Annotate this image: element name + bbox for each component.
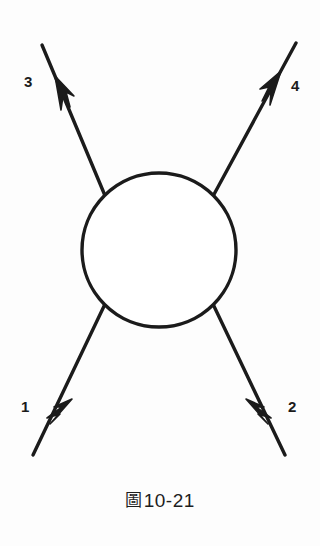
leg-label-2: 2 — [288, 399, 296, 414]
figure-caption-number: 10-21 — [144, 490, 195, 511]
leg-1-line — [33, 302, 106, 455]
figure-container: 3 4 1 2 圖10-21 — [0, 0, 320, 546]
leg-3-line-group — [42, 45, 106, 198]
scattering-diagram — [0, 0, 320, 546]
leg-label-1: 1 — [21, 399, 29, 414]
leg-2-line-group — [212, 302, 285, 455]
interaction-blob-circle — [82, 173, 236, 327]
leg-label-3: 3 — [24, 74, 32, 89]
leg-3-arrowhead — [55, 76, 74, 110]
leg-3-line — [42, 45, 106, 198]
leg-4-arrowhead — [260, 71, 281, 105]
leg-4-line-group — [212, 43, 296, 198]
figure-caption-prefix: 圖 — [125, 490, 143, 510]
leg-4-line — [212, 43, 296, 198]
leg-2-line — [212, 302, 285, 455]
leg-label-4: 4 — [291, 78, 299, 93]
figure-caption: 圖10-21 — [0, 486, 320, 512]
diagram-ink — [33, 43, 296, 455]
leg-1-line-group — [33, 302, 106, 455]
